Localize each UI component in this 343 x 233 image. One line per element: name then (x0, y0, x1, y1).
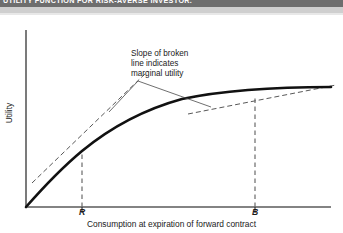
x-tick-label-r: R (75, 207, 89, 217)
utility-curve (26, 87, 331, 207)
chart-plot-area (0, 0, 343, 233)
annotation-marginal-utility: Slope of broken line indicates marginal … (131, 49, 188, 80)
annotation-line-3: marginal utility (131, 69, 188, 79)
y-axis-label: Utility (4, 85, 14, 141)
leader-line-to-tangent-b (138, 81, 211, 107)
annotation-line-2: line indicates (131, 59, 188, 69)
tangent-line-r (32, 71, 148, 183)
x-axis-label: Consumption at expiration of forward con… (0, 219, 343, 229)
figure-utility-function: UTILITY FUNCTION FOR RISK-AVERSE INVESTO… (0, 0, 343, 233)
annotation-line-1: Slope of broken (131, 49, 188, 59)
x-tick-label-b: B (248, 207, 262, 217)
leader-line-to-tangent-r (109, 81, 138, 112)
